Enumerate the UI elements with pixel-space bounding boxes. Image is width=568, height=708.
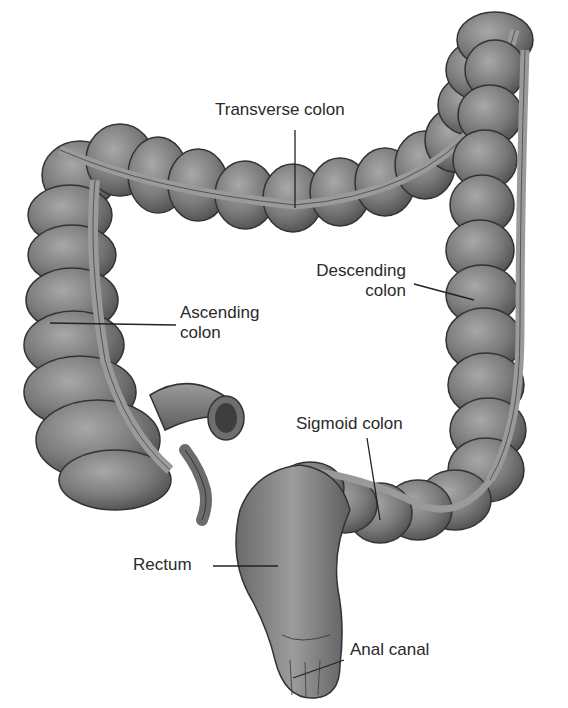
label-descending-line2: colon (290, 281, 406, 301)
label-rectum: Rectum (133, 555, 192, 575)
label-descending-line1: Descending (290, 261, 406, 281)
label-anal-canal: Anal canal (350, 640, 429, 660)
label-ascending-colon: Ascending colon (180, 303, 259, 343)
label-transverse-colon: Transverse colon (215, 100, 345, 120)
label-sigmoid-colon: Sigmoid colon (296, 414, 403, 434)
ileum (150, 384, 244, 440)
label-ascending-line2: colon (180, 323, 259, 343)
descending-colon (446, 40, 526, 502)
appendix (185, 450, 206, 520)
label-descending-colon: Descending colon (290, 261, 406, 301)
label-ascending-line1: Ascending (180, 303, 259, 323)
large-intestine-diagram: Transverse colon Descending colon Ascend… (0, 0, 568, 708)
rectum (236, 465, 350, 698)
